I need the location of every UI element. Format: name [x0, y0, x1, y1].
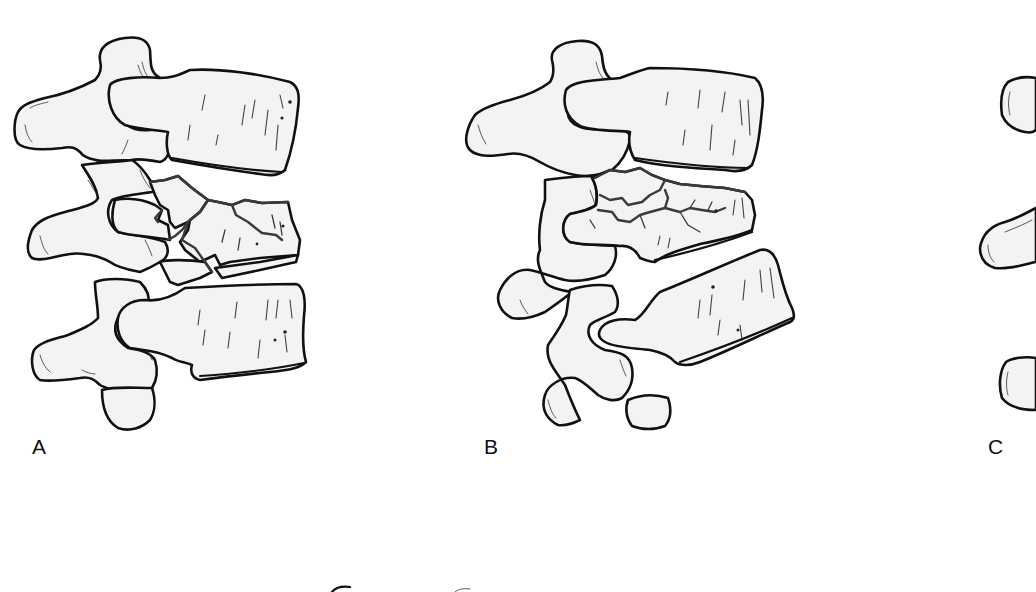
panel-label-b: B — [484, 436, 498, 457]
panel-label-a: A — [32, 436, 46, 457]
panel-a-lower-spinous-tip — [102, 388, 154, 430]
panel-a-fractured-body-fragment-inferior — [160, 260, 212, 285]
panel-c-lower-process — [1000, 357, 1036, 410]
panel-c-middle-process — [980, 208, 1036, 268]
panel-b-lower-vertebral-body — [599, 250, 794, 365]
panel-b-drawing — [466, 41, 794, 429]
panel-label-c: C — [988, 436, 1003, 457]
cropped-figure-below — [332, 587, 470, 592]
panel-b-lower-spinous-tip — [626, 396, 670, 429]
panel-c-drawing — [980, 77, 1036, 410]
vertebral-fracture-figure: A B C — [0, 0, 1036, 592]
panel-a-drawing — [15, 38, 307, 430]
panel-b-lower-posterior-elements — [543, 285, 632, 425]
figure-drawing — [0, 0, 1036, 592]
panel-c-upper-process — [1001, 77, 1036, 132]
